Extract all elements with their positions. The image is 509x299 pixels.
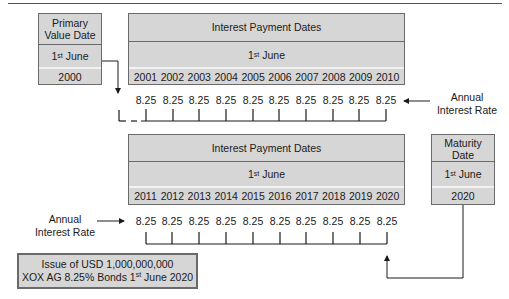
top-payment-day: 1st June bbox=[129, 42, 404, 67]
top-payment-dates-box: Interest Payment Dates 1st June 20012002… bbox=[128, 13, 405, 85]
top-annual-rate-label: Annual Interest Rate bbox=[432, 91, 502, 117]
maturity-day: 1st June bbox=[432, 162, 494, 186]
primary-value-date-box: Primary Value Date 1st June 2000 bbox=[38, 13, 102, 85]
issue-line-1: Issue of USD 1,000,000,000 bbox=[19, 258, 196, 271]
primary-value-title: Primary Value Date bbox=[39, 16, 101, 42]
bottom-payment-day: 1st June bbox=[129, 162, 404, 186]
primary-value-year: 2000 bbox=[39, 69, 101, 84]
bottom-payment-title: Interest Payment Dates bbox=[129, 135, 404, 161]
primary-value-day: 1st June bbox=[39, 45, 101, 67]
issue-description-box: Issue of USD 1,000,000,000 XOX AG 8.25% … bbox=[17, 253, 198, 289]
maturity-year: 2020 bbox=[432, 188, 494, 204]
top-payment-years: 2001200220032004200520062007200820092010 bbox=[129, 69, 404, 84]
maturity-date-box: Maturity Date 1st June 2020 bbox=[431, 134, 495, 205]
top-payment-title: Interest Payment Dates bbox=[129, 14, 404, 40]
bottom-annual-rate-label: Annual Interest Rate bbox=[30, 213, 100, 239]
maturity-title: Maturity Date bbox=[432, 136, 494, 162]
bottom-payment-dates-box: Interest Payment Dates 1st June 20112012… bbox=[128, 134, 405, 205]
bottom-payment-years: 2011201220132014201520162017201820192020 bbox=[129, 188, 404, 204]
issue-line-2: XOX AG 8.25% Bonds 1st June 2020 bbox=[19, 271, 196, 284]
